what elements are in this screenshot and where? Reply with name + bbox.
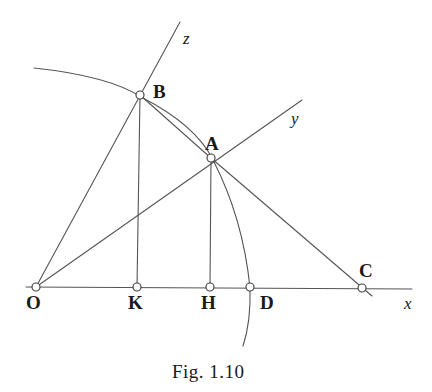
point-label-B: B	[153, 82, 166, 101]
segment-BK-perpendicular	[137, 95, 140, 287]
segment-OB-z-axis	[36, 22, 180, 287]
segment-x-axis	[26, 287, 412, 289]
arc-through-A-and-D	[141, 97, 250, 346]
figure-caption: Fig. 1.10	[172, 362, 245, 381]
point-marker-O	[32, 283, 40, 291]
arc-through-B	[34, 68, 143, 98]
segment-OA-y-axis	[36, 100, 302, 287]
point-label-C: C	[359, 261, 373, 280]
axis-label-y: y	[291, 110, 299, 127]
axis-label-z: z	[183, 30, 190, 47]
point-label-K: K	[128, 293, 143, 312]
figure-container: O K H D C A B x y z Fig. 1.10	[0, 0, 432, 392]
segment-AH-perpendicular	[210, 158, 211, 287]
axis-label-x: x	[404, 295, 412, 312]
segment-BA-chord	[140, 95, 212, 159]
point-label-O: O	[26, 293, 41, 312]
segment-AC	[211, 158, 372, 296]
point-marker-H	[206, 283, 214, 291]
point-marker-C	[358, 284, 366, 292]
point-marker-A	[207, 154, 215, 162]
geometry-drawing	[0, 0, 432, 392]
point-marker-D	[246, 283, 254, 291]
point-marker-K	[133, 283, 141, 291]
point-marker-B	[136, 91, 144, 99]
segment-group	[26, 22, 412, 296]
point-label-A: A	[205, 134, 219, 153]
point-marker-group	[32, 91, 366, 292]
point-label-D: D	[260, 293, 274, 312]
point-label-H: H	[201, 293, 216, 312]
